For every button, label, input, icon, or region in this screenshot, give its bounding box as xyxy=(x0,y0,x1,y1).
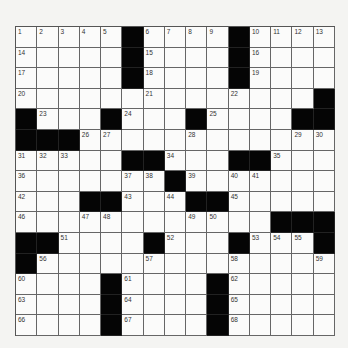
grid-cell[interactable]: 18 xyxy=(144,68,165,89)
grid-cell[interactable] xyxy=(271,68,292,89)
grid-cell[interactable] xyxy=(314,274,335,295)
grid-cell[interactable] xyxy=(292,48,313,69)
grid-cell[interactable] xyxy=(271,130,292,151)
grid-cell[interactable] xyxy=(186,254,207,275)
grid-cell[interactable]: 31 xyxy=(16,151,37,172)
grid-cell[interactable] xyxy=(292,192,313,213)
grid-cell[interactable]: 3 xyxy=(59,27,80,48)
grid-cell[interactable]: 62 xyxy=(229,274,250,295)
grid-cell[interactable]: 19 xyxy=(250,68,271,89)
grid-cell[interactable] xyxy=(144,109,165,130)
grid-cell[interactable] xyxy=(59,48,80,69)
grid-cell[interactable]: 46 xyxy=(16,212,37,233)
grid-cell[interactable] xyxy=(271,109,292,130)
grid-cell[interactable]: 27 xyxy=(101,130,122,151)
grid-cell[interactable] xyxy=(292,151,313,172)
grid-cell[interactable]: 60 xyxy=(16,274,37,295)
grid-cell[interactable]: 45 xyxy=(229,192,250,213)
grid-cell[interactable] xyxy=(80,274,101,295)
grid-cell[interactable]: 55 xyxy=(292,233,313,254)
grid-cell[interactable]: 50 xyxy=(207,212,228,233)
grid-cell[interactable]: 32 xyxy=(37,151,58,172)
grid-cell[interactable] xyxy=(250,130,271,151)
grid-cell[interactable]: 54 xyxy=(271,233,292,254)
grid-cell[interactable] xyxy=(122,89,143,110)
grid-cell[interactable]: 10 xyxy=(250,27,271,48)
grid-cell[interactable] xyxy=(80,151,101,172)
grid-cell[interactable] xyxy=(292,171,313,192)
grid-cell[interactable]: 44 xyxy=(165,192,186,213)
grid-cell[interactable] xyxy=(250,109,271,130)
grid-cell[interactable] xyxy=(37,48,58,69)
grid-cell[interactable] xyxy=(165,315,186,336)
grid-cell[interactable]: 38 xyxy=(144,171,165,192)
grid-cell[interactable] xyxy=(271,48,292,69)
grid-cell[interactable] xyxy=(165,89,186,110)
grid-cell[interactable] xyxy=(292,68,313,89)
grid-cell[interactable] xyxy=(59,254,80,275)
grid-cell[interactable] xyxy=(101,151,122,172)
grid-cell[interactable] xyxy=(186,48,207,69)
grid-cell[interactable]: 64 xyxy=(122,295,143,316)
grid-cell[interactable] xyxy=(271,274,292,295)
grid-cell[interactable] xyxy=(207,130,228,151)
grid-cell[interactable] xyxy=(144,192,165,213)
grid-cell[interactable]: 24 xyxy=(122,109,143,130)
grid-cell[interactable] xyxy=(80,89,101,110)
grid-cell[interactable] xyxy=(250,254,271,275)
grid-cell[interactable] xyxy=(80,315,101,336)
grid-cell[interactable]: 58 xyxy=(229,254,250,275)
grid-cell[interactable] xyxy=(37,315,58,336)
grid-cell[interactable]: 68 xyxy=(229,315,250,336)
grid-cell[interactable]: 52 xyxy=(165,233,186,254)
grid-cell[interactable] xyxy=(186,89,207,110)
grid-cell[interactable] xyxy=(59,171,80,192)
grid-cell[interactable]: 16 xyxy=(250,48,271,69)
grid-cell[interactable] xyxy=(229,130,250,151)
grid-cell[interactable] xyxy=(250,89,271,110)
grid-cell[interactable] xyxy=(59,274,80,295)
grid-cell[interactable] xyxy=(122,130,143,151)
grid-cell[interactable] xyxy=(80,295,101,316)
grid-cell[interactable] xyxy=(59,295,80,316)
grid-cell[interactable] xyxy=(37,171,58,192)
grid-cell[interactable] xyxy=(186,295,207,316)
grid-cell[interactable] xyxy=(314,192,335,213)
grid-cell[interactable] xyxy=(207,254,228,275)
grid-cell[interactable]: 17 xyxy=(16,68,37,89)
grid-cell[interactable] xyxy=(101,254,122,275)
grid-cell[interactable] xyxy=(250,295,271,316)
grid-cell[interactable]: 26 xyxy=(80,130,101,151)
grid-cell[interactable] xyxy=(80,171,101,192)
grid-cell[interactable]: 14 xyxy=(16,48,37,69)
grid-cell[interactable] xyxy=(165,109,186,130)
grid-cell[interactable] xyxy=(207,89,228,110)
grid-cell[interactable] xyxy=(101,68,122,89)
grid-cell[interactable]: 25 xyxy=(207,109,228,130)
grid-cell[interactable] xyxy=(165,68,186,89)
grid-cell[interactable]: 12 xyxy=(292,27,313,48)
grid-cell[interactable]: 61 xyxy=(122,274,143,295)
grid-cell[interactable] xyxy=(37,274,58,295)
grid-cell[interactable] xyxy=(59,109,80,130)
grid-cell[interactable] xyxy=(80,109,101,130)
grid-cell[interactable] xyxy=(59,192,80,213)
grid-cell[interactable] xyxy=(59,68,80,89)
grid-cell[interactable]: 11 xyxy=(271,27,292,48)
grid-cell[interactable] xyxy=(186,68,207,89)
grid-cell[interactable] xyxy=(37,212,58,233)
grid-cell[interactable] xyxy=(271,254,292,275)
grid-cell[interactable] xyxy=(271,315,292,336)
grid-cell[interactable]: 15 xyxy=(144,48,165,69)
grid-cell[interactable]: 23 xyxy=(37,109,58,130)
grid-cell[interactable] xyxy=(314,151,335,172)
grid-cell[interactable] xyxy=(144,274,165,295)
grid-cell[interactable] xyxy=(271,171,292,192)
grid-cell[interactable] xyxy=(186,315,207,336)
grid-cell[interactable]: 20 xyxy=(16,89,37,110)
grid-cell[interactable]: 7 xyxy=(165,27,186,48)
grid-cell[interactable]: 65 xyxy=(229,295,250,316)
grid-cell[interactable] xyxy=(292,89,313,110)
grid-cell[interactable] xyxy=(59,315,80,336)
grid-cell[interactable] xyxy=(186,274,207,295)
